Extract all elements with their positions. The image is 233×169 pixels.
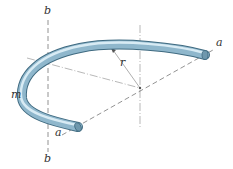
rod-end-right [202,51,208,60]
label-m: m [11,89,21,100]
rod-diagram [0,0,233,169]
label-b-top: b [44,5,51,16]
axis-a-a [62,50,213,135]
label-a-right: a [216,37,223,48]
center-point [139,87,141,89]
label-a-left: a [55,127,62,138]
label-b-bottom: b [44,153,51,164]
label-r: r [120,57,125,68]
radius-line [113,50,140,88]
